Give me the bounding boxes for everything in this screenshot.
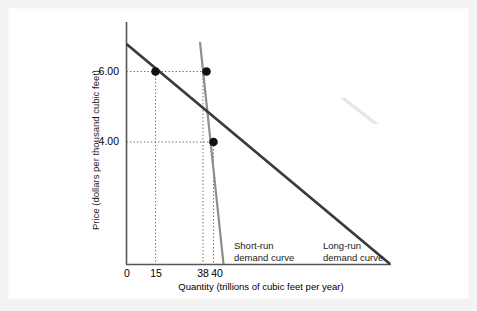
- demand-curve-figure: Price (dollars per thousand cubic feet) …: [0, 0, 477, 311]
- short-run-point-6: [202, 67, 211, 76]
- y-tick-label-6: 6.00: [85, 65, 119, 77]
- long-run-demand-curve: [127, 44, 391, 264]
- chart-plot-area: [0, 0, 477, 311]
- equilibrium-point-4: [209, 138, 218, 147]
- short-run-curve-label: Short-run demand curve: [234, 240, 294, 263]
- screenshot-root: Price (dollars per thousand cubic feet) …: [0, 0, 477, 311]
- x-tick-label-40: 40: [207, 267, 227, 279]
- short-run-demand-curve: [200, 42, 224, 264]
- x-axis-title: Quantity (trillions of cubic feet per ye…: [126, 281, 396, 292]
- long-run-curve-label-line2: demand curve: [323, 252, 383, 264]
- x-tick-label-15: 15: [146, 267, 166, 279]
- long-run-curve-label: Long-run demand curve: [323, 240, 383, 263]
- long-run-point-6: [151, 67, 160, 76]
- long-run-curve-label-line1: Long-run: [323, 240, 383, 252]
- short-run-curve-label-line1: Short-run: [234, 240, 294, 252]
- x-tick-label-0: 0: [117, 267, 137, 279]
- y-tick-label-4: 4.00: [85, 135, 119, 147]
- short-run-curve-label-line2: demand curve: [234, 252, 294, 264]
